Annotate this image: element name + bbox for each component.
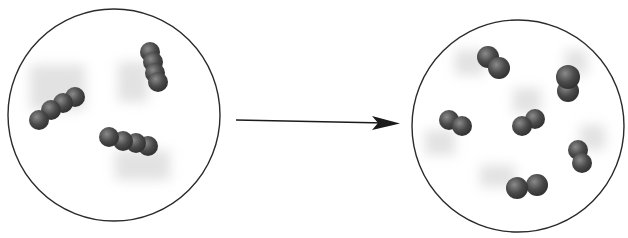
reaction-diagram [0,0,628,238]
tetra-molecule-3 [99,127,170,180]
diatomic-molecule-1 [455,46,510,79]
diatomic-molecule-5 [568,125,605,173]
tetra-molecule-1 [29,65,85,130]
diatomic-molecule-6 [480,165,548,199]
diatomic-molecule-4 [512,88,545,136]
reaction-arrow [236,116,400,130]
tetra-molecule-2 [118,42,168,102]
left-container [8,9,220,221]
diatomic-molecule-3 [425,110,472,155]
right-container [412,20,624,232]
diatomic-molecule-2 [556,50,587,102]
